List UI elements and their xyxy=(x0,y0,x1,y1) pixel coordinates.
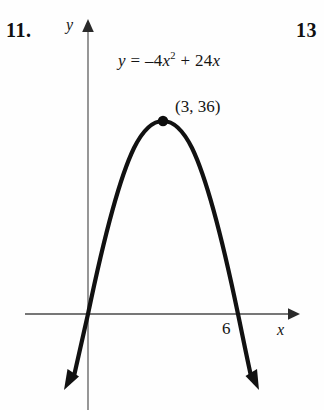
y-axis-arrowhead xyxy=(82,19,94,32)
curve-right-arrowhead xyxy=(246,369,260,390)
equation-term1-coefficient: –4 xyxy=(145,51,163,70)
x-axis-arrowhead xyxy=(288,308,300,320)
vertex-dot xyxy=(158,116,168,126)
equation-term1-exponent: 2 xyxy=(170,50,176,61)
equation-equals: = xyxy=(130,51,140,70)
equation-plus: + xyxy=(180,51,190,70)
equation-label: y = –4x2 + 24x xyxy=(118,52,220,69)
figure-page: 11. 13 y = –4x2 + 24x (3, 36) y x 6 xyxy=(0,0,324,410)
equation-term2-variable: x xyxy=(213,51,221,70)
y-axis-label: y xyxy=(66,17,73,33)
x-axis-label: x xyxy=(277,322,284,338)
equation-term2-coefficient: 24 xyxy=(195,51,213,70)
vertex-coordinate-label: (3, 36) xyxy=(175,98,220,115)
x-tick-label-6: 6 xyxy=(222,320,231,337)
equation-lhs: y xyxy=(118,51,126,70)
